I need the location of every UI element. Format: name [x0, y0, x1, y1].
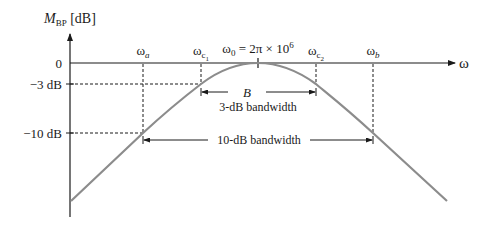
- bandpass-diagram: MBP [dB] ω 0 −3 dB −10 dB ωa ωc1 ω0 = 2π…: [0, 0, 493, 228]
- y-tick-0: 0: [56, 56, 63, 71]
- marker-omega-b: ωb: [366, 43, 380, 60]
- marker-omega-a: ωa: [136, 43, 150, 60]
- y-axis-label: MBP [dB]: [43, 11, 96, 28]
- bandwidth-symbol: B: [243, 85, 251, 100]
- marker-omega-0: ω0 = 2π × 106: [222, 40, 294, 58]
- guide-lines: [70, 64, 373, 133]
- y-tick-minus3: −3 dB: [30, 77, 63, 92]
- marker-omega-c2: ωc2: [308, 43, 325, 63]
- y-tick-minus10: −10 dB: [23, 126, 62, 141]
- marker-omega-c1: ωc1: [193, 43, 210, 63]
- bandwidth-3db-label: 3-dB bandwidth: [219, 100, 297, 114]
- x-axis-label: ω: [459, 55, 469, 71]
- bandwidth-10db-label: 10-dB bandwidth: [217, 133, 301, 147]
